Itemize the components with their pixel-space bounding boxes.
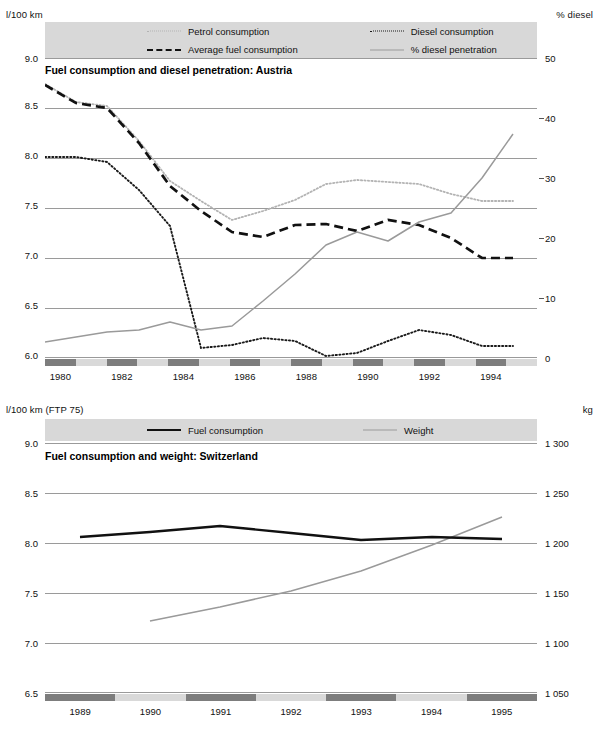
x-tick-label: 1984 xyxy=(168,371,199,382)
y2-tick-right: 1 100 xyxy=(545,639,569,649)
legend-label: Diesel consumption xyxy=(411,26,494,37)
x-tick-label: 1990 xyxy=(115,706,185,717)
y-tick-left: 7.0 xyxy=(4,251,38,261)
x-tick-label: 1991 xyxy=(186,706,256,717)
x-band xyxy=(326,694,396,701)
x-tick-label: 1990 xyxy=(353,371,384,382)
y-tick-left: 9.0 xyxy=(4,439,38,449)
diesel-line-icon xyxy=(370,26,404,36)
fuel-line-icon xyxy=(147,425,181,435)
y-tick-left: 8.0 xyxy=(4,539,38,549)
x-band xyxy=(467,694,537,701)
y2-tick-right: 0 xyxy=(545,354,550,364)
legend-item-petrol-consumption: Petrol consumption xyxy=(45,26,298,37)
x-band xyxy=(45,359,76,366)
y-tick-left: 6.5 xyxy=(4,301,38,311)
x-band xyxy=(291,359,322,366)
y-tick-left: 9.0 xyxy=(4,54,38,64)
x-tick-label: 1994 xyxy=(476,371,507,382)
average-line-icon xyxy=(147,45,181,55)
x-band xyxy=(353,359,384,366)
y2-tick-right: 1 200 xyxy=(545,539,569,549)
x-band xyxy=(115,694,185,701)
x-band xyxy=(76,359,107,366)
x-tick-label: 1982 xyxy=(107,371,138,382)
x-tick-label: 1980 xyxy=(45,371,76,382)
x-tick-label: 1995 xyxy=(467,706,537,717)
legend: Fuel consumption Weight xyxy=(45,419,537,441)
x-band xyxy=(45,694,115,701)
y2-tick-right: 10 xyxy=(545,294,556,304)
legend: Petrol consumption Diesel consumption Av… xyxy=(45,22,537,59)
series-fuel-consumption xyxy=(80,526,502,540)
legend-label: Weight xyxy=(404,425,433,436)
y2-tick-right: 40 xyxy=(545,114,556,124)
x-band xyxy=(186,694,256,701)
gridlines xyxy=(45,59,537,358)
legend-label: Average fuel consumption xyxy=(188,44,298,55)
x-band xyxy=(383,359,414,366)
series-diesel-penetration xyxy=(45,134,513,342)
legend-item-fuel-consumption: Fuel consumption xyxy=(45,425,291,436)
x-tick-label: 1994 xyxy=(396,706,466,717)
x-band xyxy=(506,359,537,366)
y2-tick-right: 1 050 xyxy=(545,689,569,699)
y2-tick-right: 1 250 xyxy=(545,489,569,499)
axis-unit-left: l/100 km xyxy=(6,9,43,20)
series-petrol-consumption xyxy=(45,84,513,220)
plot-area-austria xyxy=(45,58,537,358)
y2-tick-mark xyxy=(539,118,544,119)
chart-austria: l/100 km % diesel Petrol consumption Die… xyxy=(0,0,599,390)
x-band xyxy=(396,694,466,701)
series-diesel-consumption xyxy=(45,157,513,356)
y2-tick-mark xyxy=(539,178,544,179)
y-tick-left: 7.0 xyxy=(4,639,38,649)
y-tick-left: 8.5 xyxy=(4,101,38,111)
x-band xyxy=(107,359,138,366)
x-tick-label: 1989 xyxy=(45,706,115,717)
y-tick-left: 6.0 xyxy=(4,351,38,361)
y2-tick-right: 1 150 xyxy=(545,589,569,599)
petrol-line-icon xyxy=(147,26,181,36)
y-tick-left: 7.5 xyxy=(4,589,38,599)
legend-item-weight: Weight xyxy=(291,425,537,436)
penetration-line-icon xyxy=(370,45,404,55)
x-band xyxy=(137,359,168,366)
axis-unit-right: kg xyxy=(583,404,593,415)
y-tick-left: 8.0 xyxy=(4,151,38,161)
x-tick-label: 1992 xyxy=(256,706,326,717)
y-tick-left: 6.5 xyxy=(4,689,38,699)
x-tick-label: 1993 xyxy=(326,706,396,717)
x-axis-bands xyxy=(45,359,537,366)
gridlines xyxy=(45,444,537,693)
x-band xyxy=(445,359,476,366)
x-band xyxy=(414,359,445,366)
chart-switzerland: l/100 km (FTP 75) kg Fuel consumption We… xyxy=(0,395,599,752)
y2-tick-mark xyxy=(539,238,544,239)
x-band xyxy=(230,359,261,366)
plot-area-switzerland xyxy=(45,443,537,693)
x-tick-label: 1986 xyxy=(230,371,261,382)
series-average-fuel-consumption xyxy=(45,85,513,258)
legend-item-diesel-consumption: Diesel consumption xyxy=(298,26,537,37)
legend-label: % diesel penetration xyxy=(411,44,497,55)
x-axis-bands xyxy=(45,694,537,701)
y-tick-left: 8.5 xyxy=(4,489,38,499)
y2-tick-right: 1 300 xyxy=(545,439,569,449)
series-weight xyxy=(150,517,502,621)
x-tick-label: 1988 xyxy=(291,371,322,382)
y2-tick-mark xyxy=(539,298,544,299)
x-band xyxy=(168,359,199,366)
axis-unit-right: % diesel xyxy=(556,9,593,20)
x-band xyxy=(322,359,353,366)
legend-label: Petrol consumption xyxy=(188,26,269,37)
x-tick-label: 1992 xyxy=(414,371,445,382)
y2-tick-right: 20 xyxy=(545,234,556,244)
legend-item-average-fuel-consumption: Average fuel consumption xyxy=(45,44,298,55)
legend-item-diesel-penetration: % diesel penetration xyxy=(298,44,537,55)
legend-label: Fuel consumption xyxy=(188,425,263,436)
x-band xyxy=(476,359,507,366)
weight-line-icon xyxy=(363,425,397,435)
x-axis-labels: 1980 1982 1984 1986 1988 1990 1992 1994 xyxy=(45,371,537,382)
y2-tick-right: 30 xyxy=(545,174,556,184)
